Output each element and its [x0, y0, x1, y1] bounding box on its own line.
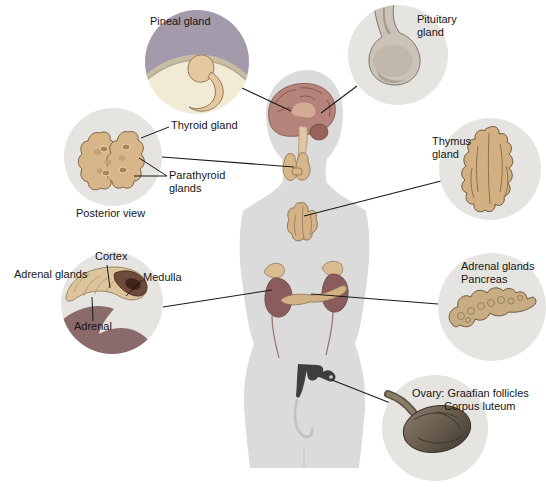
cerebellum [310, 124, 328, 140]
posterior-view-caption: Posterior view [76, 207, 145, 220]
pituitary-gland-label: Pituitary gland [417, 13, 471, 38]
ovary-follicles-label: Ovary: Graafian follicles [412, 387, 529, 400]
pineal-gland-label: Pineal gland [150, 15, 211, 28]
corpus-luteum-label: Corpus luteum [444, 400, 516, 413]
diagram-artwork [0, 0, 546, 487]
adrenal-glands-left-label: Adrenal glands [14, 268, 87, 281]
thyroid-gland-label: Thyroid gland [171, 119, 238, 132]
thyroid-gland-shape [78, 131, 144, 189]
thymus-gland-label: Thymus gland [432, 135, 482, 160]
pancreas-label: Pancreas [461, 273, 507, 286]
thyroid-inset [64, 108, 169, 206]
endocrine-system-diagram: Pineal gland Pituitary gland Thyroid gla… [0, 0, 546, 487]
adrenal-label: Adrenal [74, 320, 112, 333]
thymus-inset [439, 118, 541, 220]
parathyroid-glands-label: Parathyroid glands [169, 169, 239, 194]
cortex-label: Cortex [95, 250, 127, 263]
medulla-label: Medulla [143, 271, 182, 284]
leader-thyroid [162, 157, 294, 167]
adrenal-glands-right-label: Adrenal glands [461, 260, 534, 273]
